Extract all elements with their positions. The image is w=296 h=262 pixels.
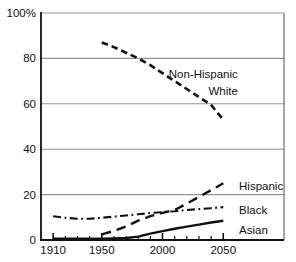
series-label-black: Black xyxy=(239,204,267,216)
series-line-asian xyxy=(53,221,223,239)
x-tick-label-1910: 1910 xyxy=(40,244,66,256)
series-label-non-hispanic: Non-Hispanic xyxy=(169,68,238,80)
population-composition-figure: 020406080100%1910195020002050Non-Hispani… xyxy=(0,0,296,262)
x-tick-label-2050: 2050 xyxy=(210,244,236,256)
series-label-hispanic: Hispanic xyxy=(239,180,283,192)
series-label-white: White xyxy=(208,85,237,97)
y-tick-label-60: 60 xyxy=(23,98,36,110)
x-tick-label-1950: 1950 xyxy=(89,244,115,256)
series-line-black xyxy=(53,207,223,219)
series-label-asian: Asian xyxy=(239,224,268,236)
y-tick-label-100: 100% xyxy=(7,7,36,19)
x-tick-label-2000: 2000 xyxy=(150,244,176,256)
y-tick-label-80: 80 xyxy=(23,52,36,64)
y-tick-label-20: 20 xyxy=(23,189,36,201)
population-composition-chart: 020406080100%1910195020002050Non-Hispani… xyxy=(0,0,296,262)
y-tick-label-40: 40 xyxy=(23,143,36,155)
series-line-non-hispanic-white xyxy=(102,43,224,120)
y-tick-label-0: 0 xyxy=(30,234,36,246)
